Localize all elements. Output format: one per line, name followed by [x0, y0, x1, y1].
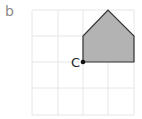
point-c: [81, 60, 86, 65]
pentagon-shape: [83, 10, 134, 62]
point-c-label: C: [71, 55, 80, 70]
